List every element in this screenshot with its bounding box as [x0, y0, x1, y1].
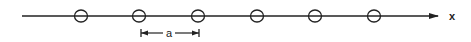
dimension-arrow-left-icon [141, 31, 148, 36]
lattice-diagram: x a [0, 0, 471, 42]
spacing-dimension: a [141, 27, 199, 39]
dimension-arrow-right-icon [192, 31, 199, 36]
spacing-label: a [166, 27, 173, 39]
x-axis-label: x [449, 10, 456, 22]
